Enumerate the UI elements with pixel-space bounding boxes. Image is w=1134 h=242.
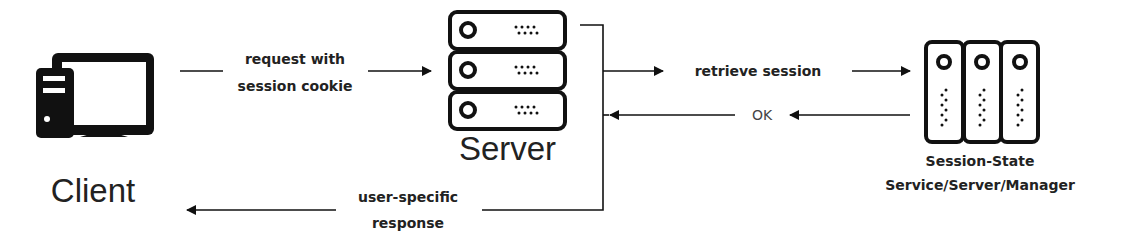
- server-label: Server: [445, 130, 570, 168]
- response-label-line1: user-specific: [338, 186, 478, 208]
- session-state-label-line1: Session-State: [905, 150, 1055, 172]
- ok-label: OK: [737, 104, 787, 126]
- request-label-line1: request with: [225, 48, 365, 70]
- diagram-canvas: [0, 0, 1134, 242]
- request-label-line2: session cookie: [225, 75, 365, 97]
- desktop-computer-icon: [36, 53, 154, 138]
- client-label: Client: [28, 172, 158, 210]
- session-state-label-line2: Service/Server/Manager: [860, 174, 1100, 196]
- server-rack-icon: [450, 12, 565, 129]
- retrieve-label: retrieve session: [668, 60, 848, 82]
- server-tower-cluster-icon: [926, 42, 1038, 142]
- response-label-line2: response: [338, 212, 478, 234]
